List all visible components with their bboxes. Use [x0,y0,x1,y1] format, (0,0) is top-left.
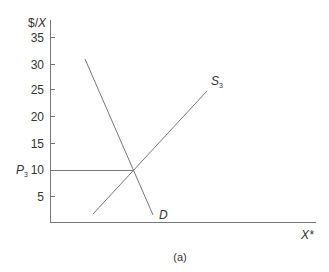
tick-label-25: 25 [31,83,45,97]
tick-label-5: 5 [37,190,44,204]
x-axis-label: X* [300,228,314,242]
supply-demand-figure: 35 30 25 20 15 10 5 $/X X* P3 D S3 (a) [0,0,329,272]
price-label: P3 [16,163,28,178]
figure-caption: (a) [173,251,186,263]
tick-label-15: 15 [31,137,45,151]
tick-label-20: 20 [31,110,45,124]
y-axis-label: $/X [28,16,47,30]
supply-curve [93,91,207,214]
supply-label: S3 [211,74,223,89]
demand-curve [85,59,153,215]
tick-label-10: 10 [31,163,45,177]
tick-label-35: 35 [31,31,45,45]
demand-label: D [159,208,168,222]
tick-label-30: 30 [31,58,45,72]
